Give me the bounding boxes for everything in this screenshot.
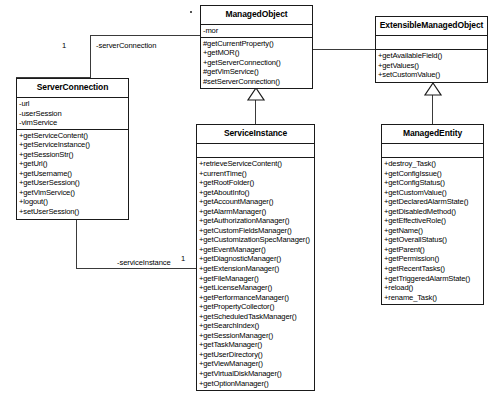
uml-operation: +getTaskManager()	[197, 340, 314, 350]
scan-artifact-speck	[190, 11, 192, 13]
uml-operation: +getSessionStr()	[17, 150, 128, 160]
uml-operation: +getConfigIssue()	[382, 169, 483, 179]
uml-class-server-connection[interactable]: ServerConnection -url -userSession -vimS…	[16, 78, 129, 220]
uml-class-name-server-connection: ServerConnection	[17, 79, 128, 98]
assoc-serverconnection-segment-horizontal-top	[90, 35, 214, 36]
gen-managedentity-arrowhead	[424, 83, 442, 96]
uml-operation: +getConfigStatus()	[382, 178, 483, 188]
uml-attributes-service-instance	[197, 144, 314, 158]
uml-operations-service-instance: +retrieveServiceContent() +currentTime()…	[197, 158, 314, 390]
assoc-serverconnection-multiplicity-source: 1	[62, 41, 66, 50]
uml-operation: +getServiceInstance()	[17, 140, 128, 150]
uml-operation: +getPermission()	[382, 254, 483, 264]
uml-operation: +getTriggeredAlarmState()	[382, 274, 483, 284]
uml-operation: +retrieveServiceContent()	[197, 159, 314, 169]
uml-operation: #setServerConnection()	[201, 77, 312, 87]
uml-operations-managed-entity: +destroy_Task() +getConfigIssue() +getCo…	[382, 158, 483, 304]
uml-operation: +getOptionManager()	[197, 379, 314, 389]
uml-operation: #getVimService()	[201, 67, 312, 77]
uml-operation: +getRootFolder()	[197, 178, 314, 188]
uml-operation: +getAccountManager()	[197, 197, 314, 207]
uml-operation: +currentTime()	[197, 169, 314, 179]
uml-operation: +getServerConnection()	[201, 58, 312, 68]
uml-operation: +getSessionManager()	[197, 331, 314, 341]
uml-class-name-managed-entity: ManagedEntity	[382, 125, 483, 144]
assoc-serviceinstance-segment-horizontal	[76, 268, 196, 269]
uml-operation: +getServiceContent()	[17, 131, 128, 141]
uml-class-managed-entity[interactable]: ManagedEntity +destroy_Task() +getConfig…	[381, 124, 484, 305]
uml-operation: +reload()	[382, 283, 483, 293]
uml-operation: +setCustomValue()	[376, 70, 487, 80]
uml-class-service-instance[interactable]: ServiceInstance +retrieveServiceContent(…	[196, 124, 315, 391]
uml-diagram-canvas: 1 -serverConnection 1 1 -serviceInstance…	[0, 0, 492, 402]
uml-operation: #getCurrentProperty()	[201, 39, 312, 49]
assoc-serverconnection-segment-vertical	[90, 35, 91, 78]
uml-operation: +getAvailableField()	[376, 51, 487, 61]
uml-operations-managed-object: #getCurrentProperty() +getMOR() +getServ…	[201, 38, 312, 89]
uml-operation: +getSearchIndex()	[197, 321, 314, 331]
assoc-serviceinstance-label: -serviceInstance	[117, 258, 171, 267]
assoc-serverconnection-label: -serverConnection	[96, 41, 156, 50]
gen-extensible-line	[310, 49, 377, 50]
uml-operation: +getParent()	[382, 245, 483, 255]
uml-operation: +getCustomValue()	[382, 188, 483, 198]
uml-operation: +logout()	[17, 197, 128, 207]
uml-operation: +getDiagnosticManager()	[197, 254, 314, 264]
uml-operation: +getUrl()	[17, 159, 128, 169]
uml-attribute: -vimService	[17, 118, 128, 128]
gen-serviceinstance-arrowhead	[247, 88, 265, 101]
uml-operation: +getExtensionManager()	[197, 264, 314, 274]
uml-attribute: -url	[17, 99, 128, 109]
uml-operation: +getMOR()	[201, 48, 312, 58]
uml-operation: +setUserSession()	[17, 207, 128, 217]
assoc-serviceinstance-multiplicity-target: 1	[181, 254, 185, 263]
uml-class-extensible-managed-object[interactable]: ExtensibleManagedObject +getAvailableFie…	[375, 16, 488, 83]
gen-managedentity-line	[432, 95, 433, 124]
uml-operation: +getPropertyCollector()	[197, 302, 314, 312]
uml-operation: +getVirtualDiskManager()	[197, 369, 314, 379]
uml-operation: +getName()	[382, 226, 483, 236]
uml-operation: +getLicenseManager()	[197, 283, 314, 293]
uml-attributes-managed-entity	[382, 144, 483, 158]
uml-operation: +getAuthorizationManager()	[197, 216, 314, 226]
uml-operation: +rename_Task()	[382, 293, 483, 303]
uml-operation: +getRecentTasks()	[382, 264, 483, 274]
uml-operation: +getDisabledMethod()	[382, 207, 483, 217]
uml-operation: +getFileManager()	[197, 274, 314, 284]
uml-attribute: -mor	[201, 26, 312, 36]
uml-operation: +getCustomizationSpecManager()	[197, 235, 314, 245]
uml-operation: +getValues()	[376, 61, 487, 71]
uml-operation: +getCustomFieldsManager()	[197, 226, 314, 236]
uml-operation: +getOverallStatus()	[382, 235, 483, 245]
uml-operation: +getPerformanceManager()	[197, 293, 314, 303]
uml-attributes-extensible-managed-object	[376, 36, 487, 50]
uml-attributes-server-connection: -url -userSession -vimService	[17, 98, 128, 130]
uml-operation: +getEventManager()	[197, 245, 314, 255]
uml-attributes-managed-object: -mor	[201, 25, 312, 38]
uml-class-name-managed-object: ManagedObject	[201, 6, 312, 25]
uml-operations-extensible-managed-object: +getAvailableField() +getValues() +setCu…	[376, 50, 487, 82]
uml-class-name-extensible-managed-object: ExtensibleManagedObject	[376, 17, 487, 36]
gen-serviceinstance-line	[255, 100, 256, 125]
uml-operation: +getUserDirectory()	[197, 350, 314, 360]
uml-operation: +getViewManager()	[197, 359, 314, 369]
uml-operation: +destroy_Task()	[382, 159, 483, 169]
uml-operation: +getVimService()	[17, 188, 128, 198]
uml-operation: +getUsername()	[17, 169, 128, 179]
uml-operation: +getAlarmManager()	[197, 207, 314, 217]
uml-operation: +getScheduledTaskManager()	[197, 312, 314, 322]
uml-attribute: -userSession	[17, 109, 128, 119]
uml-operation: +getAboutInfo()	[197, 188, 314, 198]
uml-operation: +getEffectiveRole()	[382, 216, 483, 226]
uml-operations-server-connection: +getServiceContent() +getServiceInstance…	[17, 130, 128, 219]
uml-class-managed-object[interactable]: ManagedObject -mor #getCurrentProperty()…	[200, 5, 313, 89]
uml-class-name-service-instance: ServiceInstance	[197, 125, 314, 144]
uml-operation: +getDeclaredAlarmState()	[382, 197, 483, 207]
uml-operation: +getUserSession()	[17, 178, 128, 188]
